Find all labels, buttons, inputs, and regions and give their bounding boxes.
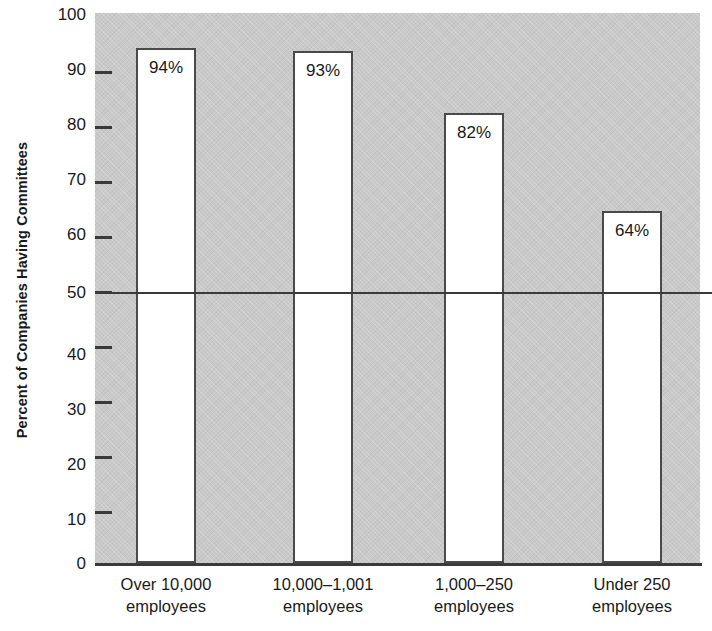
tick-mark-30 xyxy=(95,401,112,404)
tick-mark-20 xyxy=(95,456,112,459)
y-tick-label-100: 100 xyxy=(34,6,86,23)
y-axis-title: Percent of Companies Having Committees xyxy=(14,140,30,440)
tick-mark-80 xyxy=(95,126,112,129)
x-label-under-250: Under 250 employees xyxy=(547,574,712,618)
bar-value-label: 93% xyxy=(295,62,351,79)
bar-value-label: 82% xyxy=(446,124,502,141)
y-tick-label-80: 80 xyxy=(34,116,86,133)
reference-line-50 xyxy=(95,292,712,294)
y-tick-label-0: 0 xyxy=(34,555,86,572)
y-tick-label-20: 20 xyxy=(34,456,86,473)
x-label-10000-1001: 10,000–1,001 employees xyxy=(238,574,408,618)
x-label-line2: employees xyxy=(389,596,559,618)
bar-value-label: 94% xyxy=(138,59,194,76)
tick-mark-60 xyxy=(95,236,112,239)
bar-over-10000[interactable]: 94% xyxy=(136,48,196,563)
y-tick-label-70: 70 xyxy=(34,171,86,188)
x-label-1000-250: 1,000–250 employees xyxy=(389,574,559,618)
y-tick-label-30: 30 xyxy=(34,401,86,418)
tick-mark-10 xyxy=(95,511,112,514)
x-label-line1: Under 250 xyxy=(593,575,670,593)
x-axis-line xyxy=(95,563,702,566)
plot-area: 94% 93% 82% 64% xyxy=(95,13,700,563)
x-label-over-10000: Over 10,000 employees xyxy=(81,574,251,618)
y-tick-label-90: 90 xyxy=(34,61,86,78)
y-tick-label-50: 50 xyxy=(34,284,86,301)
bar-chart: Percent of Companies Having Committees 1… xyxy=(0,0,712,631)
y-tick-label-40: 40 xyxy=(34,346,86,363)
x-label-line2: employees xyxy=(81,596,251,618)
x-label-line1: 10,000–1,001 xyxy=(273,575,374,593)
x-label-line1: Over 10,000 xyxy=(121,575,212,593)
x-label-line2: employees xyxy=(547,596,712,618)
x-label-line2: employees xyxy=(238,596,408,618)
y-tick-label-60: 60 xyxy=(34,226,86,243)
tick-mark-90 xyxy=(95,71,112,74)
x-label-line1: 1,000–250 xyxy=(435,575,513,593)
bar-10000-1001[interactable]: 93% xyxy=(293,51,353,563)
tick-mark-70 xyxy=(95,181,112,184)
y-tick-label-10: 10 xyxy=(34,511,86,528)
tick-mark-40 xyxy=(95,346,112,349)
bar-1000-250[interactable]: 82% xyxy=(444,113,504,563)
bar-value-label: 64% xyxy=(604,222,660,239)
bar-under-250[interactable]: 64% xyxy=(602,211,662,563)
